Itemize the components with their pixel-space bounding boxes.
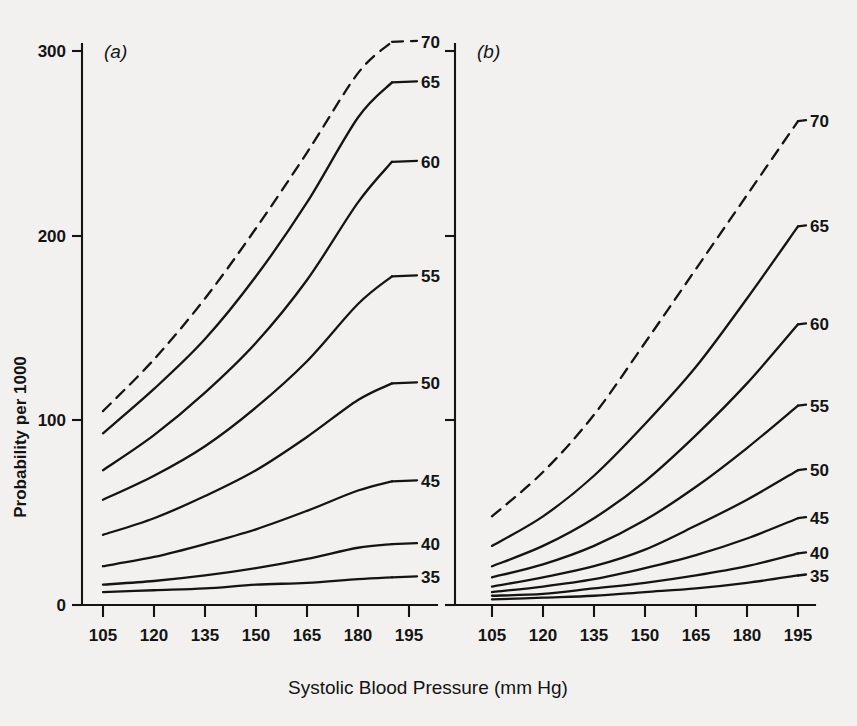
panel-b-curves — [492, 120, 806, 599]
panel-a-curve-leader-65 — [392, 81, 417, 82]
panel-b-curve-leader-70 — [798, 120, 806, 121]
panel-b-curve-labels: 7065605550454035 — [810, 112, 829, 585]
panel-b-curve-leader-45 — [798, 517, 806, 518]
panel-a-x-tick-label-180: 180 — [344, 626, 372, 645]
panel-b-x-tick-label-165: 165 — [682, 626, 710, 645]
panel-a-curve-label-55: 55 — [421, 267, 440, 286]
panel-a-curve-label-65: 65 — [421, 73, 440, 92]
panel-b-curve-leader-40 — [798, 552, 806, 553]
panel-a-curve-label-60: 60 — [421, 153, 440, 172]
panel-a-curve-50 — [103, 383, 392, 534]
panel-a-curve-leader-55 — [392, 275, 417, 276]
panel-b-curve-label-65: 65 — [810, 217, 829, 236]
panel-b-curve-leader-50 — [798, 469, 806, 470]
panel-a-y-tick-label-300: 300 — [38, 42, 66, 61]
panel-b-curve-leader-60 — [798, 323, 806, 324]
panel-a-x-tick-label-120: 120 — [140, 626, 168, 645]
panel-b-curve-label-45: 45 — [810, 509, 829, 528]
y-axis-title: Probability per 1000 — [11, 356, 30, 518]
panel-a-x-tick-label-195: 195 — [395, 626, 423, 645]
panel-a-curve-leader-50 — [392, 382, 417, 383]
panel-a-curve-35 — [103, 577, 392, 592]
panel-a-curve-leader-40 — [392, 543, 417, 544]
panel-a-curve-labels: 7065605550454035 — [421, 33, 440, 588]
panel-a-curve-70 — [103, 42, 392, 411]
panel-a-curve-40 — [103, 544, 392, 585]
panel-a: 300 200 100 0 105 120 135 150 165 180 19… — [38, 33, 440, 645]
panel-b-curve-55 — [492, 406, 798, 578]
panel-a-y-tick-label-100: 100 — [38, 411, 66, 430]
panel-b-curve-label-70: 70 — [810, 112, 829, 131]
panel-a-curve-leader-45 — [392, 480, 417, 481]
panel-a-curve-label-40: 40 — [421, 535, 440, 554]
panel-a-curve-leader-70 — [392, 41, 417, 42]
panel-b-curve-70 — [492, 121, 798, 516]
panel-a-curve-label-45: 45 — [421, 472, 440, 491]
panel-b-tag: (b) — [477, 41, 500, 62]
chart-svg: 300 200 100 0 105 120 135 150 165 180 19… — [0, 0, 857, 726]
panel-b-x-tick-label-120: 120 — [529, 626, 557, 645]
panel-a-curve-55 — [103, 276, 392, 499]
panel-a-y-tick-label-200: 200 — [38, 227, 66, 246]
panel-b-curve-leader-65 — [798, 225, 806, 226]
panel-a-x-tick-label-150: 150 — [242, 626, 270, 645]
panel-b-x-tick-label-135: 135 — [580, 626, 608, 645]
panel-a-curve-45 — [103, 481, 392, 566]
panel-a-curve-leader-60 — [392, 161, 417, 162]
panel-a-curve-label-70: 70 — [421, 33, 440, 52]
panel-b: 105 120 135 150 165 180 195 (b) 70656055… — [445, 41, 829, 645]
panel-a-x-tick-label-135: 135 — [191, 626, 219, 645]
panel-a-y-tick-label-0: 0 — [57, 596, 66, 615]
panel-a-curve-65 — [103, 82, 392, 433]
panel-b-curve-label-60: 60 — [810, 315, 829, 334]
panel-a-x-tick-label-165: 165 — [293, 626, 321, 645]
figure-container: 300 200 100 0 105 120 135 150 165 180 19… — [0, 0, 857, 726]
panel-a-curve-60 — [103, 162, 392, 470]
panel-b-curve-40 — [492, 553, 798, 595]
panel-a-tag: (a) — [104, 41, 127, 62]
panel-b-x-tick-label-150: 150 — [631, 626, 659, 645]
panel-b-x-tick-label-180: 180 — [733, 626, 761, 645]
panel-b-x-tick-label-105: 105 — [478, 626, 506, 645]
panel-a-curve-label-35: 35 — [421, 568, 440, 587]
panel-a-curve-leader-35 — [392, 576, 417, 577]
panel-b-curve-leader-35 — [798, 575, 806, 576]
panel-a-curve-label-50: 50 — [421, 374, 440, 393]
panel-b-x-tick-label-195: 195 — [784, 626, 812, 645]
panel-b-curve-leader-55 — [798, 405, 806, 406]
panel-b-curve-label-50: 50 — [810, 461, 829, 480]
panel-b-curve-45 — [492, 518, 798, 592]
panel-a-x-tick-label-105: 105 — [89, 626, 117, 645]
x-axis-title: Systolic Blood Pressure (mm Hg) — [288, 677, 568, 698]
panel-b-curve-label-40: 40 — [810, 544, 829, 563]
panel-a-curves — [103, 41, 417, 592]
panel-b-curve-label-35: 35 — [810, 567, 829, 586]
panel-b-curve-label-55: 55 — [810, 397, 829, 416]
